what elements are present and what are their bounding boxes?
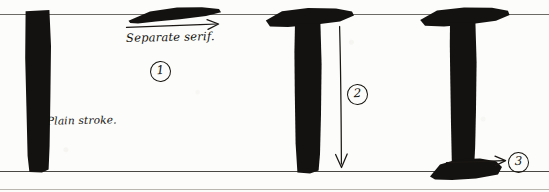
guideline-lower-rule bbox=[0, 189, 549, 190]
diagram-canvas: Separate serif. Plain stroke. 1 2 3 bbox=[0, 0, 549, 192]
arrow-foot-serif bbox=[444, 154, 512, 174]
step-number-3: 3 bbox=[508, 152, 529, 173]
step-number-1: 1 bbox=[149, 60, 171, 82]
stroke-plain-stem bbox=[20, 6, 64, 178]
annotation-plain-stroke: Plain stroke. bbox=[47, 113, 117, 126]
step-number-2: 2 bbox=[347, 84, 369, 106]
annotation-separate-serif: Separate serif. bbox=[126, 29, 215, 45]
